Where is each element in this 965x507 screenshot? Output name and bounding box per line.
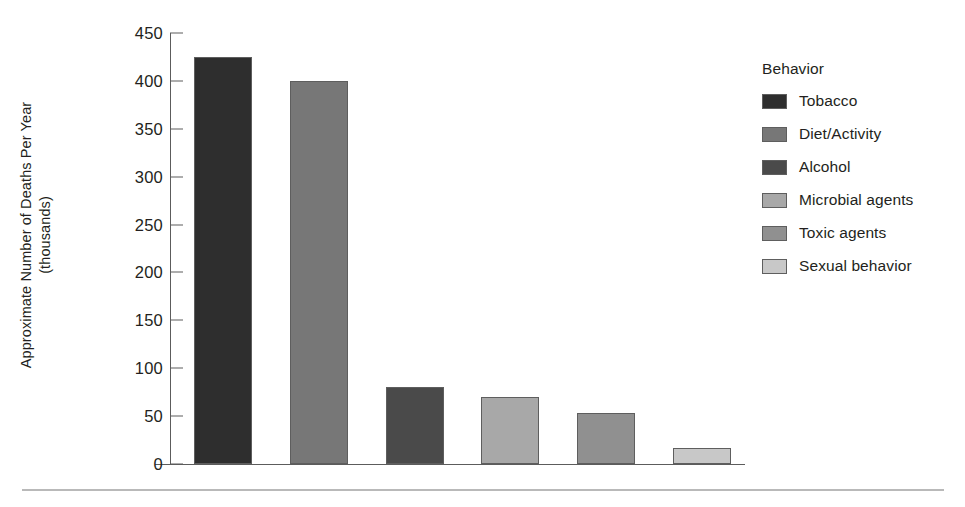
legend-item[interactable]: Alcohol (762, 157, 958, 177)
legend-item-label: Toxic agents (799, 224, 886, 242)
bar (194, 57, 252, 464)
legend: Behavior TobaccoDiet/ActivityAlcoholMicr… (762, 60, 958, 289)
legend-swatch (762, 193, 787, 208)
plot-area: 450400350300250200150100500 (170, 33, 745, 464)
y-axis-tick-label: 450 (135, 24, 170, 43)
legend-item[interactable]: Diet/Activity (762, 124, 958, 144)
bar-chart-figure: Approximate Number of Deaths Per Year (t… (0, 0, 965, 507)
legend-item[interactable]: Toxic agents (762, 223, 958, 243)
y-axis-label-text: Approximate Number of Deaths Per Year (t… (17, 102, 55, 368)
legend-item-label: Sexual behavior (799, 257, 912, 275)
bar (673, 448, 731, 464)
y-axis-tick: 400 (135, 71, 170, 90)
y-axis-tick-label: 0 (154, 455, 170, 474)
y-axis-tick: 100 (135, 359, 170, 378)
x-axis-line (155, 464, 745, 465)
legend-swatch (762, 127, 787, 142)
bar (577, 413, 635, 464)
bar-series (170, 33, 745, 464)
y-axis-tick: 50 (144, 407, 170, 426)
y-axis-label-line-1: Approximate Number of Deaths Per Year (17, 102, 36, 368)
bar (481, 397, 539, 464)
legend-items: TobaccoDiet/ActivityAlcoholMicrobial age… (762, 91, 958, 276)
legend-item-label: Microbial agents (799, 191, 913, 209)
y-axis-tick-label: 400 (135, 71, 170, 90)
y-axis-tick: 250 (135, 215, 170, 234)
legend-swatch (762, 226, 787, 241)
y-axis-tick-label: 100 (135, 359, 170, 378)
legend-title: Behavior (762, 60, 958, 78)
legend-item-label: Alcohol (799, 158, 851, 176)
legend-swatch (762, 259, 787, 274)
y-axis-tick: 200 (135, 263, 170, 282)
y-axis-tick: 0 (154, 455, 170, 474)
legend-swatch (762, 94, 787, 109)
y-axis-tick: 450 (135, 24, 170, 43)
y-axis-tick: 150 (135, 311, 170, 330)
y-axis-tick: 300 (135, 167, 170, 186)
legend-item[interactable]: Tobacco (762, 91, 958, 111)
y-axis-tick-label: 250 (135, 215, 170, 234)
y-axis-label-line-2: (thousands) (36, 102, 55, 368)
legend-item[interactable]: Sexual behavior (762, 256, 958, 276)
legend-swatch (762, 160, 787, 175)
y-axis-tick-label: 300 (135, 167, 170, 186)
bottom-divider (22, 489, 944, 491)
y-axis-label: Approximate Number of Deaths Per Year (t… (14, 0, 58, 470)
bar (386, 387, 444, 464)
bar (290, 81, 348, 464)
y-axis-tick-label: 200 (135, 263, 170, 282)
y-axis-tick: 350 (135, 119, 170, 138)
y-axis-tick-label: 350 (135, 119, 170, 138)
legend-item[interactable]: Microbial agents (762, 190, 958, 210)
legend-item-label: Tobacco (799, 92, 857, 110)
y-axis-tick-label: 150 (135, 311, 170, 330)
legend-item-label: Diet/Activity (799, 125, 881, 143)
y-axis-tick-label: 50 (144, 407, 170, 426)
